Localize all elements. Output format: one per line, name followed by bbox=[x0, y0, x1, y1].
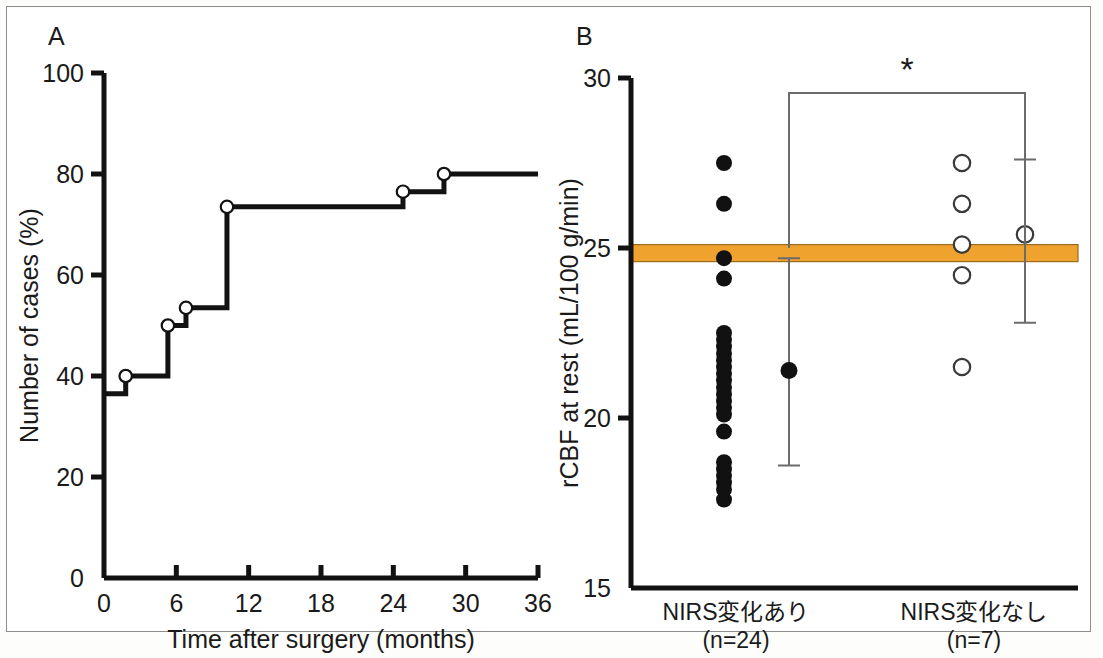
panel-b-group-n: (n=24) bbox=[702, 627, 769, 653]
panel-b-data-point bbox=[954, 155, 970, 171]
panel-b-data-point bbox=[716, 407, 732, 423]
panel-b-data-point bbox=[716, 271, 732, 287]
figure-root: A 020406080100061218243036Time after sur… bbox=[0, 0, 1103, 658]
panel-b-chart: 15202530rCBF at rest (mL/100 g/min)NIRS変… bbox=[0, 0, 1103, 640]
panel-b-group-label: NIRS変化あり bbox=[663, 599, 810, 625]
panel-b-group-label: NIRS変化なし bbox=[901, 599, 1048, 625]
panel-b-ytick-15: 15 bbox=[583, 574, 611, 602]
panel-b-data-point bbox=[716, 196, 732, 212]
panel-b-group-n: (n=7) bbox=[947, 627, 1001, 653]
panel-b-data-point bbox=[954, 359, 970, 375]
panel-b-ytick-25: 25 bbox=[583, 234, 611, 262]
panel-b-data-point bbox=[954, 267, 970, 283]
panel-b-reference-band bbox=[631, 245, 1078, 262]
panel-b-significance-bracket bbox=[789, 93, 1025, 248]
panel-b-significance-star: * bbox=[900, 50, 913, 88]
panel-b-data-point bbox=[954, 236, 970, 252]
panel-b-ytick-20: 20 bbox=[583, 404, 611, 432]
panel-b-data-point bbox=[716, 155, 732, 171]
panel-b-data-point bbox=[716, 250, 732, 266]
panel-b-data-point bbox=[954, 196, 970, 212]
panel-b-data-point bbox=[716, 492, 732, 508]
panel-b-ytick-30: 30 bbox=[583, 64, 611, 92]
panel-b-yaxis-title: rCBF at rest (mL/100 g/min) bbox=[555, 178, 583, 488]
panel-b-mean-marker bbox=[781, 362, 798, 379]
panel-b-data-point bbox=[716, 424, 732, 440]
